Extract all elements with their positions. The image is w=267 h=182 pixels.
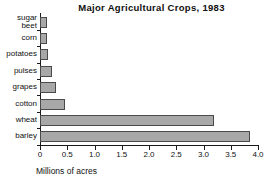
bar-row: cotton bbox=[40, 96, 258, 112]
x-axis-title: Millions of acres bbox=[36, 166, 97, 176]
x-axis-tick-label: 2.5 bbox=[171, 150, 182, 159]
x-axis-tick-label: 3.0 bbox=[198, 150, 209, 159]
x-axis-tick-label: 0.5 bbox=[62, 150, 73, 159]
x-axis-tick-label: 2.0 bbox=[143, 150, 154, 159]
bar-row: corn bbox=[40, 30, 258, 46]
bar-row: barley bbox=[40, 129, 258, 145]
x-axis-tick-label: 1.0 bbox=[89, 150, 100, 159]
x-axis-tick-label: 3.5 bbox=[225, 150, 236, 159]
bar-chart: Major Agricultural Crops, 1983 sugar bee… bbox=[0, 0, 267, 182]
y-axis-tick-label: sugar beet bbox=[17, 14, 37, 30]
bar-row: grapes bbox=[40, 80, 258, 96]
bar bbox=[40, 17, 47, 28]
y-axis-tick-label: pulses bbox=[14, 67, 37, 75]
x-axis-tick-label: 4.0 bbox=[252, 150, 263, 159]
bar-row: wheat bbox=[40, 112, 258, 128]
y-axis-tick-label: grapes bbox=[13, 83, 37, 91]
x-axis-tick-label: 0 bbox=[38, 150, 42, 159]
y-axis-tick-label: cotton bbox=[15, 100, 37, 108]
plot-area: sugar beetcornpotatoespulsesgrapescotton… bbox=[40, 14, 258, 145]
bar bbox=[40, 82, 56, 93]
bar bbox=[40, 99, 65, 110]
y-axis-tick-label: wheat bbox=[16, 116, 37, 124]
bar bbox=[40, 131, 250, 142]
chart-title: Major Agricultural Crops, 1983 bbox=[0, 2, 267, 13]
bar-row: potatoes bbox=[40, 47, 258, 63]
y-axis-tick-label: barley bbox=[15, 132, 37, 140]
y-axis-tick-label: corn bbox=[21, 34, 37, 42]
y-axis-tick-label: potatoes bbox=[6, 50, 37, 58]
bar-row: pulses bbox=[40, 63, 258, 79]
bar bbox=[40, 115, 214, 126]
bar bbox=[40, 66, 52, 77]
bar-row: sugar beet bbox=[40, 14, 258, 30]
x-axis-tick-label: 1.5 bbox=[116, 150, 127, 159]
bar bbox=[40, 33, 47, 44]
bar bbox=[40, 49, 48, 60]
